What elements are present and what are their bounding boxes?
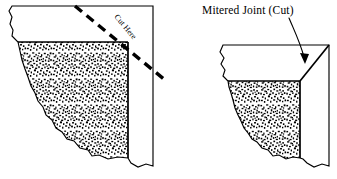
left-block-right-face [128, 24, 153, 167]
right-diagram-group: Mitered Joint (Cut) [202, 4, 329, 167]
left-diagram-group: Cut Here [9, 6, 165, 167]
figure-root: Cut Here Mitered Joint (Cut) [0, 0, 337, 179]
mitered-joint-caption: Mitered Joint (Cut) [202, 4, 294, 17]
right-block-front-texture [226, 78, 304, 164]
left-block-front-texture [14, 38, 136, 164]
figure-canvas: Cut Here Mitered Joint (Cut) [0, 0, 337, 179]
